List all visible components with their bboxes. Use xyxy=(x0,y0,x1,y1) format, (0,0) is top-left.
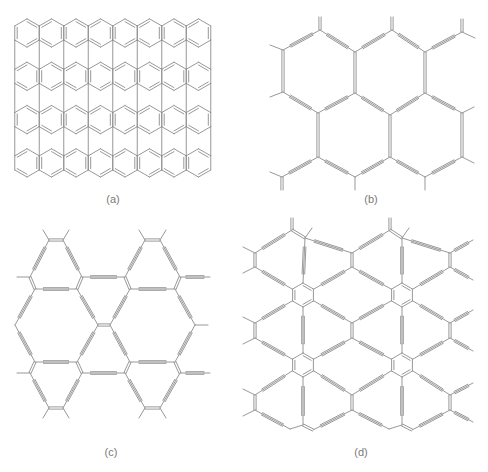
benzene-node-network-diagram xyxy=(0,0,488,472)
panel-d: (d) xyxy=(0,0,488,472)
panel-d-label: (d) xyxy=(354,446,367,458)
figure: (a) (b) (c) (d) xyxy=(0,0,488,472)
